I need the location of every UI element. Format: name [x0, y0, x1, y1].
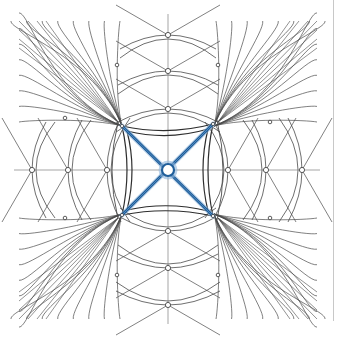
- axis-boss: [104, 167, 109, 172]
- axis-boss: [263, 167, 268, 172]
- central-boss: [162, 164, 174, 176]
- bay-corner-boss: [120, 213, 123, 216]
- bay-corner-boss: [120, 124, 123, 127]
- fan-rib: [218, 30, 317, 122]
- fan-rib: [19, 218, 118, 292]
- fan-rib: [218, 218, 317, 310]
- axis-boss: [165, 265, 170, 270]
- axis-boss: [165, 228, 170, 233]
- fan-rib: [214, 214, 317, 220]
- fan-rib: [214, 60, 317, 126]
- fan-rib: [19, 30, 118, 122]
- page-divider-line: [333, 0, 334, 321]
- axis-boss: [225, 167, 230, 172]
- fan-rib: [214, 120, 317, 126]
- axis-boss: [165, 68, 170, 73]
- fan-rib: [19, 48, 118, 122]
- fan-rib: [218, 218, 299, 319]
- fan-rib: [37, 21, 118, 122]
- axis-boss: [299, 167, 304, 172]
- bay-corner-boss: [211, 214, 214, 217]
- fan-rib: [218, 48, 317, 122]
- fan-rib: [19, 120, 122, 126]
- fan-rib: [19, 218, 118, 310]
- fan-rib: [19, 214, 122, 220]
- fan-rib: [19, 60, 122, 126]
- diagonal-boss: [268, 216, 272, 220]
- diagonal-boss: [216, 63, 220, 67]
- fan-rib: [214, 214, 317, 280]
- diagonal-boss: [63, 116, 67, 120]
- diagonal-boss: [63, 216, 67, 220]
- fan-rib: [19, 214, 122, 280]
- fan-rib: [218, 218, 317, 292]
- vault-rib-diagram: [0, 0, 337, 339]
- axis-boss: [165, 106, 170, 111]
- diagonal-boss: [115, 63, 119, 67]
- axis-boss: [165, 302, 170, 307]
- fan-rib: [37, 218, 118, 319]
- axis-boss: [65, 167, 70, 172]
- diagonal-boss: [216, 273, 220, 277]
- axis-boss: [29, 167, 34, 172]
- diagonal-boss: [115, 273, 119, 277]
- diagonal-boss: [268, 120, 272, 124]
- axis-boss: [165, 32, 170, 37]
- fan-rib: [218, 21, 299, 122]
- bay-corner-boss: [211, 122, 214, 125]
